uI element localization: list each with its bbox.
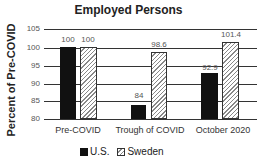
gridline-80	[44, 119, 257, 120]
value-label-sweden-trough: 98.6	[144, 40, 174, 49]
x-category-october-2020: October 2020	[188, 125, 257, 135]
chart-title: Employed Persons	[0, 3, 257, 17]
bar-us-trough	[131, 105, 146, 119]
value-label-us-trough: 84	[124, 91, 154, 100]
bar-sweden-october-2020	[222, 42, 239, 119]
x-category-pre-covid: Pre-COVID	[50, 125, 106, 135]
value-label-sweden-pre-covid: 100	[73, 35, 103, 44]
y-tick-105: 105	[20, 24, 40, 33]
legend-label-us: U.S.	[90, 146, 109, 157]
y-tick-80: 80	[20, 114, 40, 123]
legend: U.S. Sweden	[80, 146, 164, 157]
plot-area: 105 100 95 90 85 80 100 100 84 98.6 92.9…	[44, 29, 257, 119]
y-tick-95: 95	[20, 61, 40, 70]
y-tick-85: 85	[20, 96, 40, 105]
value-label-us-october-2020: 92.9	[195, 63, 225, 72]
bar-sweden-trough	[151, 52, 167, 119]
bar-us-pre-covid	[60, 47, 76, 119]
x-category-trough-of-covid: Trough of COVID	[110, 125, 190, 135]
y-axis-label: Percent of Pre-COVID	[5, 23, 17, 138]
y-tick-100: 100	[20, 43, 40, 52]
legend-swatch-us-icon	[80, 148, 88, 156]
bar-us-october-2020	[201, 73, 218, 119]
legend-swatch-sweden-icon	[117, 148, 125, 156]
y-tick-90: 90	[20, 79, 40, 88]
bar-sweden-pre-covid	[80, 47, 97, 119]
legend-label-sweden: Sweden	[127, 146, 163, 157]
value-label-sweden-october-2020: 101.4	[216, 30, 246, 39]
